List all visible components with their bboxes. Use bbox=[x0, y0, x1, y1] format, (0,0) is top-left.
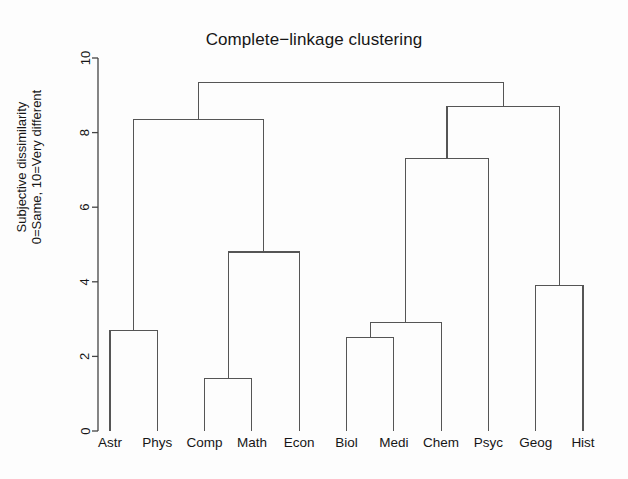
dendrogram-merge-m2 bbox=[347, 338, 394, 431]
leaf-label-math: Math bbox=[237, 435, 267, 450]
dendrogram-merge-m7 bbox=[406, 159, 489, 431]
leaf-label-hist: Hist bbox=[571, 435, 594, 450]
merge-link bbox=[199, 82, 503, 119]
dendrogram-merge-m10 bbox=[199, 82, 503, 119]
merge-link bbox=[447, 106, 559, 285]
y-axis-tick-label: 6 bbox=[78, 204, 93, 211]
dendrogram-merge-m6 bbox=[228, 252, 299, 431]
leaf-label-biol: Biol bbox=[335, 435, 358, 450]
y-axis bbox=[92, 58, 98, 431]
y-axis-tick-label: 0 bbox=[78, 427, 93, 434]
leaf-label-econ: Econ bbox=[284, 435, 315, 450]
leaf-label-medi: Medi bbox=[379, 435, 408, 450]
dendrogram-merge-m1 bbox=[205, 379, 252, 431]
dendrogram-merge-m4 bbox=[370, 323, 441, 431]
merge-link bbox=[134, 120, 264, 331]
merge-link bbox=[347, 338, 394, 431]
leaf-label-geog: Geog bbox=[519, 435, 552, 450]
y-axis-tick-labels: 0246810 bbox=[78, 51, 93, 435]
y-axis-tick-label: 8 bbox=[78, 129, 93, 136]
leaf-label-psyc: Psyc bbox=[474, 435, 504, 450]
dendrogram-merge-m5 bbox=[536, 286, 583, 431]
dendrogram-figure: Complete−linkage clustering Subjective d… bbox=[0, 0, 628, 479]
leaf-label-chem: Chem bbox=[423, 435, 459, 450]
y-axis-tick-label: 10 bbox=[78, 51, 93, 65]
merge-link bbox=[110, 330, 157, 431]
merge-link bbox=[370, 323, 441, 431]
merge-link bbox=[228, 252, 299, 431]
dendrogram-merge-m8 bbox=[134, 120, 264, 331]
merge-link bbox=[536, 286, 583, 431]
leaf-label-astr: Astr bbox=[98, 435, 123, 450]
merge-link bbox=[406, 159, 489, 431]
y-axis-tick-label: 4 bbox=[78, 278, 93, 285]
leaf-label-comp: Comp bbox=[187, 435, 223, 450]
dendrogram-plot: 0246810 AstrPhysCompMathEconBiolMediChem… bbox=[0, 0, 628, 479]
merge-link bbox=[205, 379, 252, 431]
dendrogram-merge-m3 bbox=[110, 330, 157, 431]
y-axis-tick-label: 2 bbox=[78, 353, 93, 360]
dendrogram-merge-m9 bbox=[447, 106, 559, 285]
dendrogram-tree bbox=[110, 82, 583, 431]
leaf-label-phys: Phys bbox=[142, 435, 172, 450]
leaf-labels: AstrPhysCompMathEconBiolMediChemPsycGeog… bbox=[98, 435, 595, 450]
